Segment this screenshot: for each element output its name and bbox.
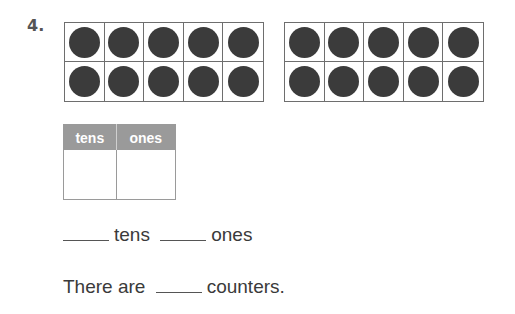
ones-label: ones [211, 224, 252, 245]
ten-frame-2 [284, 22, 484, 102]
counter-icon [69, 27, 100, 58]
sentence-prefix: There are [63, 276, 145, 297]
counter-icon [289, 27, 320, 58]
counter-icon [228, 66, 259, 97]
tens-blank[interactable] [63, 240, 109, 241]
counter-icon [448, 27, 479, 58]
counter-icon [368, 27, 399, 58]
problem-number: 4. [27, 16, 44, 35]
tens-label: tens [114, 224, 150, 245]
tens-answer-cell[interactable] [64, 150, 117, 200]
counter-icon [448, 66, 479, 97]
ones-answer-cell[interactable] [116, 150, 175, 200]
counter-icon [148, 27, 179, 58]
counter-icon [408, 27, 439, 58]
ones-blank[interactable] [160, 240, 206, 241]
counter-icon [228, 27, 259, 58]
tens-header: tens [64, 125, 117, 151]
ones-header: ones [116, 125, 175, 151]
counter-icon [408, 66, 439, 97]
place-value-table: tens ones [63, 124, 176, 200]
tens-ones-sentence: tens ones [63, 224, 252, 246]
counter-icon [188, 66, 219, 97]
counters-sentence: There are counters. [63, 276, 285, 298]
counter-icon [368, 66, 399, 97]
counter-icon [328, 27, 359, 58]
total-blank[interactable] [156, 292, 202, 293]
counter-icon [108, 66, 139, 97]
counter-icon [69, 66, 100, 97]
counter-icon [108, 27, 139, 58]
counter-icon [188, 27, 219, 58]
ten-frame-1 [64, 22, 264, 102]
counter-icon [148, 66, 179, 97]
counter-icon [289, 66, 320, 97]
counter-icon [328, 66, 359, 97]
sentence-suffix: counters. [207, 276, 285, 297]
